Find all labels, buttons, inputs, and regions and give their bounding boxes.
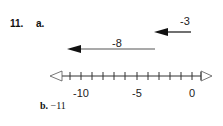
- tick-label-0: 0: [189, 87, 195, 99]
- left-arrowhead-icon: [50, 71, 62, 81]
- part-b-answer: −11: [51, 100, 66, 111]
- number-line: [50, 71, 212, 81]
- arrow-minus-8: [67, 45, 155, 53]
- part-b-label: b.: [40, 100, 48, 111]
- tick-label-minus-10: -10: [73, 87, 89, 99]
- arrow-label-minus-3: -3: [180, 15, 190, 27]
- part-b: b. −11: [40, 100, 66, 111]
- arrow-label-minus-8: -8: [112, 37, 122, 49]
- tick-label-minus-5: -5: [132, 87, 142, 99]
- arrow-minus-3: [154, 28, 191, 36]
- right-arrowhead-icon: [201, 71, 212, 81]
